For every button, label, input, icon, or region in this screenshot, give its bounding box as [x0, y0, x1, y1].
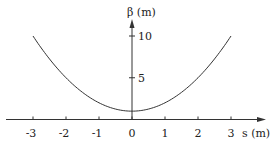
y-axis-arrow-icon [130, 19, 135, 28]
y-axis-label: β (m) [127, 6, 156, 19]
x-axis-arrow-icon [257, 117, 266, 122]
x-tick-label: 3 [228, 127, 235, 140]
axes [6, 19, 266, 122]
x-tick-label: 1 [162, 127, 169, 140]
y-tick-label: 5 [138, 72, 145, 85]
x-tick-label: 0 [129, 127, 136, 140]
x-tick-label: -3 [26, 127, 37, 140]
beta-function-chart: -3-2-10123 510 s (m) β (m) [0, 0, 274, 146]
y-tick-label: 10 [138, 30, 152, 43]
x-tick-label: -2 [59, 127, 70, 140]
x-tick-label: 2 [195, 127, 202, 140]
x-ticks: -3-2-10123 [26, 117, 235, 141]
x-axis-label: s (m) [242, 127, 270, 140]
x-tick-label: -1 [92, 127, 103, 140]
